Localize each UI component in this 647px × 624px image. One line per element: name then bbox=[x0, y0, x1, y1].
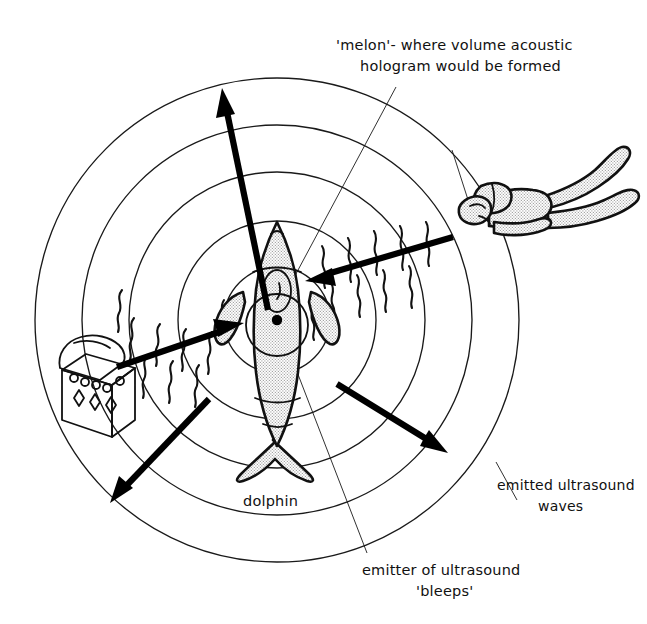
dolphin-tail-fluke bbox=[237, 440, 313, 482]
squiggle bbox=[383, 270, 386, 312]
arrow-head bbox=[216, 88, 235, 118]
diagram-canvas: 'melon'- where volume acoustic hologram … bbox=[0, 0, 647, 624]
arrow-head bbox=[420, 430, 448, 453]
squiggle bbox=[169, 361, 173, 403]
arrow-outward-down-left bbox=[110, 399, 209, 503]
scuba-diver-figure bbox=[459, 147, 639, 235]
text-labels: 'melon'- where volume acoustic hologram … bbox=[243, 37, 635, 599]
treasure-jewel bbox=[74, 390, 84, 406]
emitter-label-line1: emitter of ultrasound bbox=[362, 562, 520, 578]
dolphin-label: dolphin bbox=[243, 493, 298, 509]
squiggle bbox=[400, 226, 403, 270]
melon-label-line2: hologram would be formed bbox=[360, 58, 561, 74]
treasure-jewel bbox=[106, 397, 116, 413]
squiggle bbox=[195, 365, 199, 407]
waves-label-line2: waves bbox=[538, 498, 583, 514]
squiggle bbox=[409, 266, 412, 308]
arrow-shaft bbox=[227, 112, 268, 310]
arrow-echo-from-diver bbox=[305, 237, 453, 286]
echolocation-diagram-figure: 'melon'- where volume acoustic hologram … bbox=[0, 0, 647, 624]
dolphin-body bbox=[254, 222, 301, 446]
squiggle bbox=[118, 290, 122, 332]
emitter-center-dot bbox=[272, 315, 282, 325]
squiggle bbox=[156, 324, 160, 366]
dolphin-figure bbox=[215, 222, 340, 482]
treasure-chest-figure bbox=[59, 335, 135, 437]
squiggle bbox=[374, 231, 377, 275]
arrow-outward-down-right bbox=[337, 384, 448, 453]
arrow-shaft bbox=[337, 384, 428, 440]
treasure-coin bbox=[103, 384, 111, 392]
chest-lid-band bbox=[74, 341, 110, 348]
squiggle bbox=[348, 238, 351, 282]
squiggle bbox=[143, 356, 147, 398]
squiggle bbox=[357, 275, 360, 317]
treasure-jewel bbox=[90, 394, 100, 410]
arrow-head bbox=[305, 268, 336, 286]
arrow-outward-up bbox=[216, 88, 268, 310]
melon-label-line1: 'melon'- where volume acoustic bbox=[336, 37, 573, 53]
arrow-shaft bbox=[127, 399, 209, 485]
waves-label-line1: emitted ultrasound bbox=[497, 477, 635, 493]
emitter-label-line2: 'bleeps' bbox=[416, 583, 473, 599]
treasure-coin bbox=[70, 374, 78, 382]
dolphin-left-pectoral-fin bbox=[215, 292, 245, 344]
arrow-shaft bbox=[327, 237, 453, 274]
treasure-coin bbox=[81, 378, 89, 386]
chest-front-panel bbox=[62, 370, 112, 437]
